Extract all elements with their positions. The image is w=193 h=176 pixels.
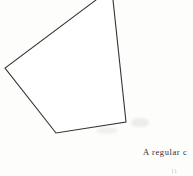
pentagon-shape	[5, 0, 126, 133]
scanned-page: A regular c 11	[0, 0, 193, 176]
figure-caption-primary: A regular c	[143, 147, 187, 158]
figure-caption-secondary: 11	[171, 167, 178, 175]
